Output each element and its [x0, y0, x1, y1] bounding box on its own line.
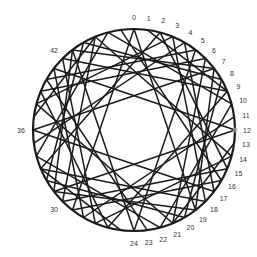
node-label-10: 10: [239, 97, 247, 104]
node-label-18: 18: [210, 206, 218, 213]
node-label-6: 6: [212, 47, 216, 54]
chord-diagram: 0123456789101112131415161718192021222324…: [0, 0, 257, 257]
node-label-1: 1: [147, 15, 151, 22]
chord-lines: [33, 29, 235, 231]
node-label-36: 36: [17, 127, 25, 134]
chord-8-44: [84, 43, 222, 80]
node-label-21: 21: [173, 231, 181, 238]
chord-28-11: [84, 117, 235, 218]
node-label-2: 2: [161, 17, 165, 24]
chord-40-23: [47, 80, 148, 231]
node-label-17: 17: [220, 195, 228, 202]
node-label-11: 11: [242, 112, 249, 119]
chord-20-8: [185, 80, 222, 218]
node-label-24: 24: [130, 240, 138, 247]
node-label-0: 0: [132, 14, 136, 21]
node-label-30: 30: [50, 206, 58, 213]
node-marker: [233, 128, 238, 133]
node-label-20: 20: [187, 224, 195, 231]
node-label-9: 9: [236, 83, 240, 90]
chord-32-20: [47, 181, 185, 218]
node-label-14: 14: [239, 156, 247, 163]
node-label-13: 13: [242, 141, 250, 148]
node-label-12: 12: [243, 127, 251, 134]
node-label-8: 8: [230, 70, 234, 77]
node-label-3: 3: [175, 22, 179, 29]
node-label-22: 22: [159, 236, 167, 243]
node-label-23: 23: [145, 239, 153, 246]
node-label-5: 5: [201, 37, 205, 44]
node-label-4: 4: [189, 29, 193, 36]
chord-44-32: [47, 43, 84, 181]
node-label-19: 19: [199, 216, 207, 223]
node-label-15: 15: [235, 170, 243, 177]
chord-16-47: [121, 30, 222, 181]
node-label-42: 42: [50, 47, 58, 54]
node-label-16: 16: [228, 183, 236, 190]
node-label-7: 7: [222, 58, 226, 65]
chord-4-35: [34, 43, 185, 144]
